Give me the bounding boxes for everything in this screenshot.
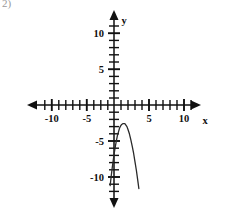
y-axis-down-arrow-icon bbox=[110, 198, 119, 208]
x-tick-label-5: 5 bbox=[146, 113, 151, 124]
y-tick-label-5: 5 bbox=[99, 64, 104, 75]
graph-svg: -10 -5 5 10 10 5 -5 -10 x y bbox=[0, 0, 228, 218]
y-tick-label-neg10: -10 bbox=[90, 172, 104, 183]
x-axis-right-arrow-icon bbox=[191, 101, 201, 110]
y-axis-label: y bbox=[121, 15, 127, 26]
y-tick-label-neg5: -5 bbox=[95, 136, 104, 147]
x-axis-left-arrow-icon bbox=[27, 101, 37, 110]
x-tick-label-neg10: -10 bbox=[45, 113, 59, 124]
x-axis-label: x bbox=[202, 115, 208, 126]
y-axis-up-arrow-icon bbox=[110, 10, 119, 20]
x-tick-label-neg5: -5 bbox=[82, 113, 91, 124]
y-tick-label-10: 10 bbox=[94, 28, 105, 39]
coordinate-graph-figure: -10 -5 5 10 10 5 -5 -10 x y bbox=[0, 0, 228, 218]
x-tick-label-10: 10 bbox=[179, 113, 190, 124]
x-axis-tick-labels: -10 -5 5 10 bbox=[45, 113, 189, 124]
